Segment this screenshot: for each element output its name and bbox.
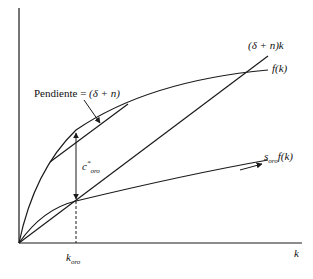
depreciation-line bbox=[19, 56, 268, 243]
production-function-label: f(k) bbox=[272, 63, 287, 74]
golden-rule-diagram: (δ + n)k f(k) sorof(k) Pendiente = (δ + … bbox=[0, 0, 313, 279]
depreciation-line-label: (δ + n)k bbox=[248, 40, 284, 51]
savings-function-curve bbox=[19, 160, 268, 243]
golden-consumption-label: c*oro bbox=[82, 160, 100, 175]
savings-function-label: sorof(k) bbox=[264, 151, 293, 165]
golden-k-label: koro bbox=[66, 252, 80, 266]
tangent-line bbox=[50, 104, 128, 162]
slope-label: Pendiente = (δ + n) bbox=[34, 88, 120, 99]
x-axis-label: k bbox=[294, 248, 299, 259]
